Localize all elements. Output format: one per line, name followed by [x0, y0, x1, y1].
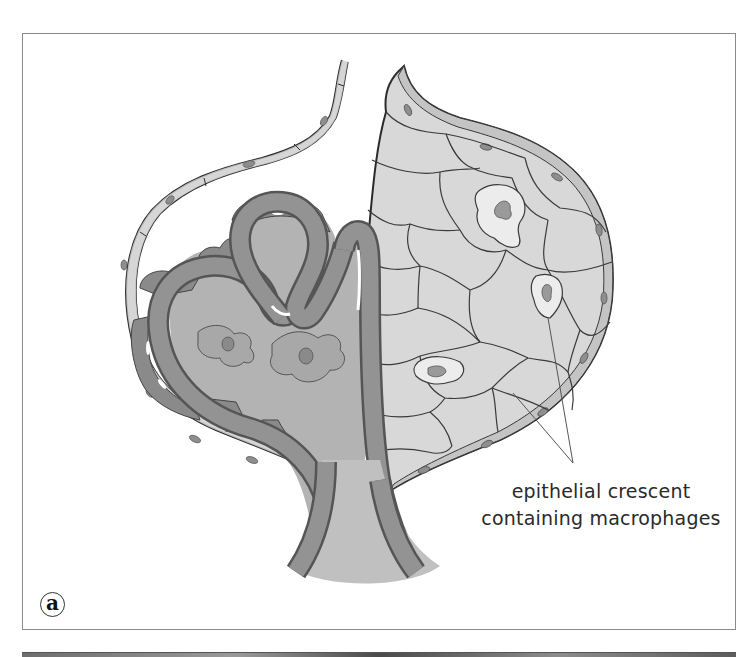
next-figure-panel-edge [22, 652, 736, 657]
epithelial-crescent [362, 66, 612, 492]
callout-line-2: containing macrophages [462, 505, 740, 532]
callout-line-1: epithelial crescent [462, 478, 740, 505]
panel-label-badge: a [40, 592, 65, 617]
callout-label-epithelial-crescent: epithelial crescent containing macrophag… [462, 478, 740, 532]
